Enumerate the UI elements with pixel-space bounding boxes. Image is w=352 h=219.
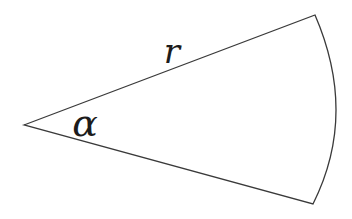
- radius-label: r: [164, 31, 182, 71]
- angle-label: α: [72, 101, 98, 145]
- sector-canvas: r α: [0, 0, 352, 219]
- sector-diagram: r α: [0, 0, 352, 219]
